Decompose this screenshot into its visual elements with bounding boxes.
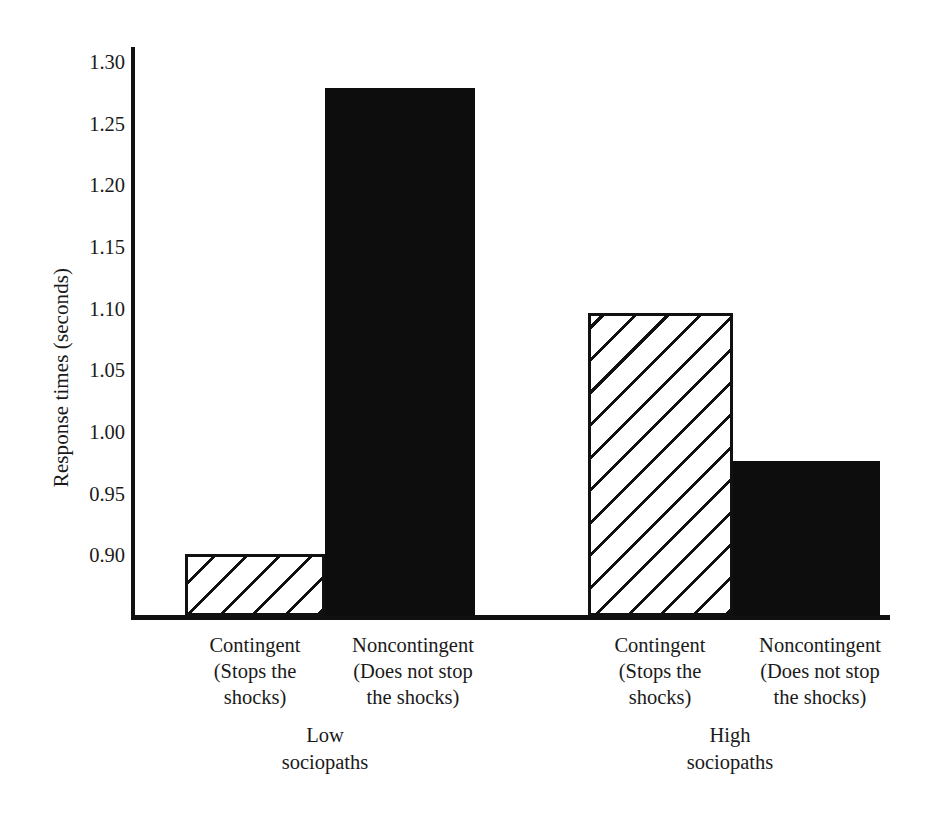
category-label-low-noncontingent: Noncontingent (Does not stop the shocks) xyxy=(318,632,508,710)
y-tick-label-4: 1.15 xyxy=(55,237,125,258)
bar-high-noncontingent xyxy=(733,461,880,616)
y-tick-label-1: 1.30 xyxy=(55,52,125,73)
bar-chart: Response times (seconds) 1.30 1.25 1.20 … xyxy=(0,0,928,820)
bar-low-noncontingent xyxy=(325,88,475,616)
category-label-high-contingent: Contingent (Stops the shocks) xyxy=(575,632,745,710)
y-tick-label-6: 1.05 xyxy=(55,360,125,381)
group-label-high-sociopaths: High sociopaths xyxy=(630,722,830,776)
y-tick-label-9: 0.90 xyxy=(55,545,125,566)
y-tick-label-2: 1.25 xyxy=(55,114,125,135)
y-axis-line xyxy=(131,47,135,619)
y-tick-label-5: 1.10 xyxy=(55,299,125,320)
bar-high-contingent xyxy=(588,313,733,616)
y-tick-label-8: 0.95 xyxy=(55,484,125,505)
bar-low-contingent xyxy=(185,554,325,616)
group-label-low-sociopaths: Low sociopaths xyxy=(225,722,425,776)
category-label-high-noncontingent: Noncontingent (Does not stop the shocks) xyxy=(725,632,915,710)
y-tick-label-7: 1.00 xyxy=(55,422,125,443)
y-tick-label-3: 1.20 xyxy=(55,175,125,196)
category-label-low-contingent: Contingent (Stops the shocks) xyxy=(170,632,340,710)
